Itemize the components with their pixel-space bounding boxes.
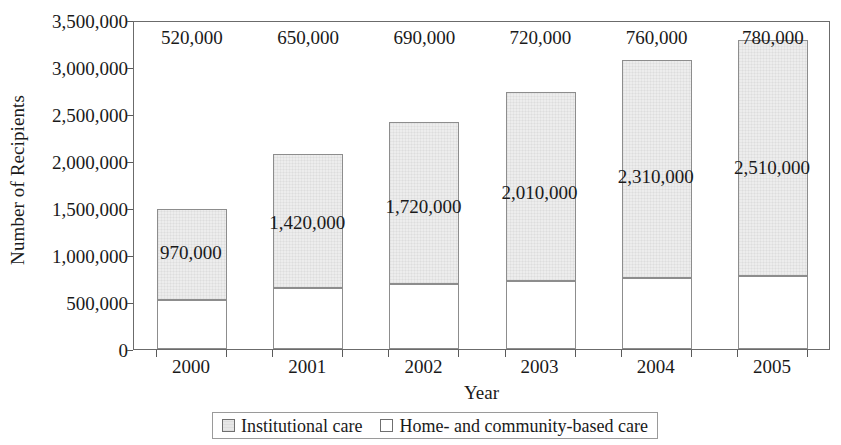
x-axis-tick-mark (458, 350, 459, 357)
legend-swatch-icon (222, 419, 235, 432)
bar-value-label-home-community-based-care: 720,000 (510, 28, 572, 311)
bar-value-label-institutional-care: 2,510,000 (734, 158, 810, 177)
y-axis-tick-label: 500,000 (28, 294, 128, 313)
bar-value-label-home-community-based-care: 690,000 (393, 28, 455, 314)
legend-entry[interactable]: Institutional care (222, 417, 362, 435)
x-axis-title: Year (133, 383, 830, 402)
stacked-bar-chart-figure: Number of Recipients 0500,0001,000,0001,… (0, 0, 841, 445)
x-axis-tick-mark (272, 350, 273, 357)
y-axis-tick-label: 3,000,000 (28, 59, 128, 78)
legend-swatch-icon (380, 419, 393, 432)
x-axis-tick-label: 2005 (753, 357, 791, 376)
x-axis-tick-mark (156, 350, 157, 357)
bar-value-label-institutional-care: 1,420,000 (269, 213, 345, 232)
bar-group[interactable]: 690,0001,720,000 (389, 20, 459, 349)
bar-group[interactable]: 780,0002,510,000 (738, 20, 808, 349)
x-axis-tick-label: 2004 (637, 357, 675, 376)
y-axis-tick-label: 1,000,000 (28, 247, 128, 266)
y-axis-tick-mark (127, 350, 133, 351)
x-axis-tick-mark (621, 350, 622, 357)
bar-value-label-institutional-care: 2,010,000 (502, 183, 578, 202)
chart-legend: Institutional careHome- and community-ba… (212, 412, 658, 439)
x-axis-tick-labels: 200020012002200320042005 (0, 357, 841, 383)
x-axis-tick-mark (807, 350, 808, 357)
y-axis-tick-label: 2,000,000 (28, 153, 128, 172)
y-axis-tick-label: 2,500,000 (28, 106, 128, 125)
x-axis-tick-mark (575, 350, 576, 357)
bar-value-label-institutional-care: 970,000 (160, 243, 222, 262)
x-axis-tick-mark (388, 350, 389, 357)
bar-value-label-institutional-care: 2,310,000 (618, 167, 694, 186)
bar-group[interactable]: 720,0002,010,000 (506, 20, 576, 349)
y-axis-title-text: Number of Recipients (7, 95, 29, 265)
y-axis-tick-label: 1,500,000 (28, 200, 128, 219)
x-axis-tick-mark (691, 350, 692, 357)
x-axis-tick-label: 2001 (288, 357, 326, 376)
bar-value-label-home-community-based-care: 650,000 (277, 28, 339, 318)
y-axis-tick-label: 3,500,000 (28, 12, 128, 31)
x-axis-tick-label: 2003 (521, 357, 559, 376)
x-axis-tick-mark (226, 350, 227, 357)
x-axis-tick-label: 2002 (404, 357, 442, 376)
x-axis-tick-mark (737, 350, 738, 357)
bar-value-label-home-community-based-care: 520,000 (161, 28, 223, 330)
bar-group[interactable]: 520,000970,000 (157, 20, 227, 349)
legend-label: Home- and community-based care (399, 417, 647, 435)
bar-group[interactable]: 650,0001,420,000 (273, 20, 343, 349)
bar-group[interactable]: 760,0002,310,000 (622, 20, 692, 349)
plot-area: 520,000970,000650,0001,420,000690,0001,7… (133, 21, 830, 350)
x-axis-tick-mark (342, 350, 343, 357)
legend-entry[interactable]: Home- and community-based care (380, 417, 647, 435)
x-axis-tick-mark (505, 350, 506, 357)
bar-value-label-institutional-care: 1,720,000 (385, 197, 461, 216)
legend-label: Institutional care (241, 417, 362, 435)
x-axis-tick-label: 2000 (172, 357, 210, 376)
